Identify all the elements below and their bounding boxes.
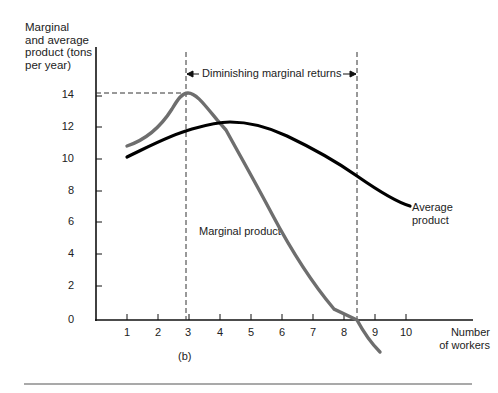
chart-canvas (0, 0, 498, 393)
y-ticks (96, 96, 102, 286)
diminishing-returns-arrow (187, 71, 356, 77)
marginal-product-curve (127, 93, 380, 352)
x-ticks (127, 314, 406, 320)
average-product-curve (127, 122, 410, 206)
